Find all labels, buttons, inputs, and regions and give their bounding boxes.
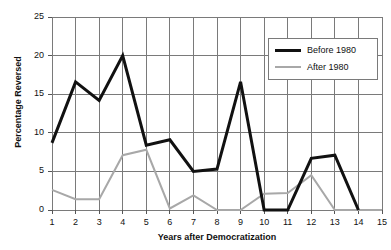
legend-item-before-1980: Before 1980 [275, 43, 356, 57]
black-line-swatch [275, 49, 301, 52]
legend-item-after-1980: After 1980 [275, 60, 349, 74]
line-chart: Percentage Reversed Years after Democrat… [0, 0, 391, 250]
legend: Before 1980 After 1980 [268, 38, 378, 80]
gray-line-swatch [275, 66, 301, 68]
legend-label-after-1980: After 1980 [307, 62, 349, 72]
legend-label-before-1980: Before 1980 [307, 45, 356, 55]
